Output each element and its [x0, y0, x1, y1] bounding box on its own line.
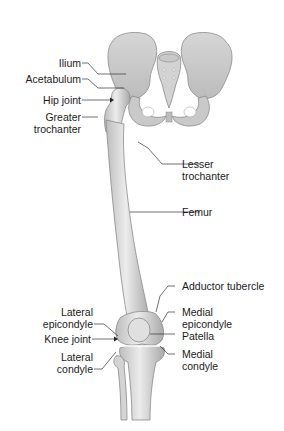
label-text: Medial: [182, 306, 232, 318]
sacral-promontory: [159, 54, 179, 62]
label-text: condyle: [182, 360, 218, 372]
label-lateral-condyle: Lateral condyle: [57, 351, 93, 375]
femur: [105, 88, 164, 345]
ilium-left: [108, 32, 157, 98]
label-adductor-tubercle: Adductor tubercle: [182, 280, 264, 292]
label-ilium: Ilium: [59, 57, 81, 69]
label-lesser-trochanter: Lesser trochanter: [182, 158, 229, 182]
obturator-foramen-left: [142, 107, 154, 117]
label-text: Medial: [182, 348, 218, 360]
label-text: Hip joint: [43, 94, 81, 106]
label-text: Lesser: [182, 158, 229, 170]
leader-adductor-tubercle: [156, 286, 175, 312]
label-text: Lateral: [57, 351, 93, 363]
label-patella: Patella: [182, 330, 214, 342]
label-text: Femur: [182, 206, 212, 218]
obturator-foramen-right: [184, 107, 196, 117]
anatomy-diagram: Ilium Acetabulum Hip joint Greater troch…: [0, 0, 284, 431]
femur-shaft: [106, 120, 150, 322]
leader-medial-epicondyle: [162, 312, 175, 322]
fibula: [114, 356, 127, 420]
leader-lateral-condyle: [94, 352, 116, 369]
label-text: Knee joint: [44, 333, 91, 345]
label-text: Ilium: [59, 57, 81, 69]
label-text: Greater: [34, 111, 81, 123]
label-acetabulum: Acetabulum: [26, 73, 81, 85]
pubic-symphysis: [166, 112, 172, 122]
label-text: Lateral: [43, 306, 93, 318]
lower-leg: [114, 345, 165, 420]
label-text: condyle: [57, 363, 93, 375]
label-knee-joint: Knee joint: [44, 333, 91, 345]
label-lateral-epicondyle: Lateral epicondyle: [43, 306, 93, 330]
patella: [128, 318, 150, 342]
label-hip-joint: Hip joint: [43, 94, 81, 106]
label-femur: Femur: [182, 206, 212, 218]
label-text: trochanter: [34, 123, 81, 135]
pelvis: [108, 32, 232, 126]
label-medial-condyle: Medial condyle: [182, 348, 218, 372]
label-medial-epicondyle: Medial epicondyle: [182, 306, 232, 330]
label-greater-trochanter: Greater trochanter: [34, 111, 81, 135]
label-text: Acetabulum: [26, 73, 81, 85]
label-text: Patella: [182, 330, 214, 342]
label-text: epicondyle: [43, 318, 93, 330]
label-text: Adductor tubercle: [182, 280, 264, 292]
ilium-right: [181, 32, 232, 98]
bone-illustration: [0, 0, 284, 431]
label-text: epicondyle: [182, 318, 232, 330]
label-text: trochanter: [182, 170, 229, 182]
leader-lateral-epicondyle: [94, 324, 118, 336]
